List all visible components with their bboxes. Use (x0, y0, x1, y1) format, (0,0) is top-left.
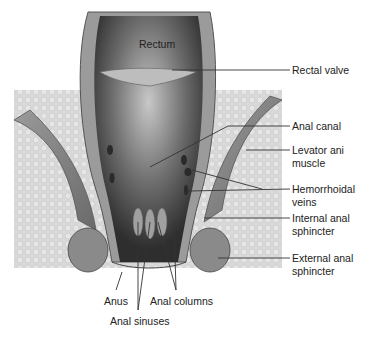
label-anal-sinuses: Anal sinuses (110, 315, 170, 327)
label-levator-ani-line2: muscle (292, 157, 325, 169)
label-external-sphincter-line2: sphincter (292, 265, 335, 277)
label-rectum: Rectum (139, 38, 175, 50)
rectum-illustration (0, 0, 374, 344)
external-sphincter-right (190, 228, 230, 272)
label-internal-sphincter-line1: Internal anal (292, 212, 350, 224)
label-anus: Anus (104, 295, 128, 307)
label-anal-canal: Anal canal (292, 120, 341, 132)
label-rectal-valve: Rectal valve (292, 64, 349, 76)
label-anal-columns: Anal columns (150, 295, 213, 307)
label-internal-sphincter-line2: sphincter (292, 225, 335, 237)
external-sphincter-left (68, 228, 108, 272)
label-hemorrhoidal-veins-line1: Hemorrhoidal (292, 183, 355, 195)
label-levator-ani-line1: Levator ani (292, 144, 344, 156)
label-external-sphincter-line1: External anal (292, 252, 353, 264)
label-hemorrhoidal-veins-line2: veins (292, 196, 317, 208)
anatomy-diagram: Rectum Rectal valve Anal canal Levator a… (0, 0, 374, 344)
